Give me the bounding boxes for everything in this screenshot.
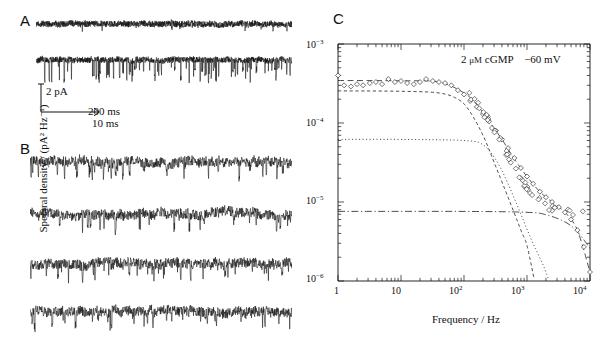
spectral-density-chart bbox=[330, 38, 600, 290]
xtick-label-4: 104 bbox=[573, 284, 587, 296]
panel-b-letter: B bbox=[20, 140, 30, 157]
panel-a-traces bbox=[36, 12, 292, 84]
ytick-label-2: 10−4 bbox=[306, 116, 323, 128]
scalebar-time-a-label: 200 ms bbox=[88, 105, 120, 117]
panel-c-letter: C bbox=[333, 10, 344, 27]
panel-a-letter: A bbox=[20, 12, 30, 29]
xtick-label-2: 102 bbox=[449, 284, 463, 296]
figure-root: A 2 pA 200 ms 10 ms B C 2 μM cGMP −60 mV… bbox=[0, 0, 607, 347]
scalebar-time-b-label: 10 ms bbox=[92, 117, 119, 129]
xtick-label-3: 103 bbox=[511, 284, 525, 296]
ytick-label-0: 10−6 bbox=[306, 272, 323, 284]
x-axis-title: Frequency / Hz bbox=[432, 313, 500, 325]
ytick-label-1: 10−5 bbox=[306, 194, 323, 206]
xtick-label-0: 1 bbox=[334, 285, 339, 296]
ytick-label-3: 10−3 bbox=[306, 38, 323, 50]
panel-b-traces bbox=[30, 140, 292, 340]
y-axis-title: Spectral density / (pA² Hz⁻¹) bbox=[37, 74, 50, 264]
xtick-label-1: 10 bbox=[391, 285, 401, 296]
